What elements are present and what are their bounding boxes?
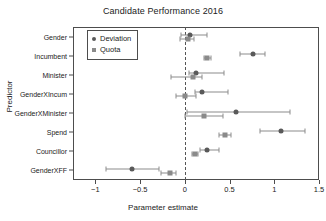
error-bar-cap <box>218 132 219 137</box>
y-tick-label-spend: Spend <box>47 129 67 136</box>
error-bar-cap <box>224 71 225 76</box>
x-tick-label: 1.5 <box>314 185 324 194</box>
error-bar-cap <box>193 37 194 42</box>
x-tick-mark <box>319 180 320 184</box>
x-tick-mark <box>185 180 186 184</box>
data-point-quota <box>192 151 197 156</box>
data-point-quota <box>201 113 206 118</box>
y-axis-label: Predictor <box>5 62 14 132</box>
y-tick-label-genderxincum: GenderXIncum <box>20 90 67 97</box>
y-tick-mark <box>69 113 73 114</box>
data-point-quota <box>190 75 195 80</box>
x-tick-mark <box>95 180 96 184</box>
chart-figure: Candidate Performance 2016 Predictor Par… <box>0 0 326 221</box>
y-tick-label-councillor: Councillor <box>36 148 67 155</box>
error-bar-cap <box>201 75 202 80</box>
error-bar-cap <box>227 90 228 95</box>
error-bar-cap <box>106 166 107 171</box>
legend-item-quota: Quota <box>92 45 131 56</box>
y-tick-label-gender: Gender <box>44 33 67 40</box>
chart-legend: Deviation Quota <box>87 30 138 60</box>
y-tick-mark <box>69 151 73 152</box>
error-bar-cap <box>171 75 172 80</box>
data-point-quota <box>205 56 210 61</box>
legend-item-deviation: Deviation <box>92 34 131 45</box>
error-bar-cap <box>184 113 185 118</box>
error-bar-cap <box>223 113 224 118</box>
y-tick-label-incumbent: Incumbent <box>34 52 67 59</box>
zero-reference-line <box>185 27 186 180</box>
error-bar-cap <box>290 109 291 114</box>
error-bar-cap <box>304 128 305 133</box>
data-point-deviation <box>250 52 255 57</box>
error-bar-cap <box>196 94 197 99</box>
error-bar-deviation <box>187 111 291 112</box>
error-bar-deviation <box>181 35 207 36</box>
x-tick-label: 1 <box>272 185 276 194</box>
error-bar-cap <box>231 132 232 137</box>
data-point-deviation <box>279 128 284 133</box>
error-bar-cap <box>181 33 182 38</box>
data-point-deviation <box>233 109 238 114</box>
error-bar-cap <box>198 151 199 156</box>
error-bar-cap <box>210 56 211 61</box>
data-point-deviation <box>130 166 135 171</box>
x-tick-mark <box>140 180 141 184</box>
x-tick-mark <box>230 180 231 184</box>
legend-label-deviation: Deviation <box>100 34 131 45</box>
y-tick-label-genderxminister: GenderXMinister <box>14 110 67 117</box>
x-tick-label: −0.5 <box>133 185 148 194</box>
y-tick-mark <box>69 55 73 56</box>
y-tick-mark <box>69 36 73 37</box>
square-marker-icon <box>92 48 96 52</box>
x-tick-label: 0 <box>183 185 187 194</box>
y-tick-mark <box>69 74 73 75</box>
error-bar-cap <box>186 109 187 114</box>
y-tick-label-genderxff: GenderXFF <box>30 167 67 174</box>
data-point-deviation <box>199 90 204 95</box>
data-point-quota <box>185 37 190 42</box>
legend-label-quota: Quota <box>100 45 120 56</box>
error-bar-cap <box>160 170 161 175</box>
error-bar-cap <box>218 147 219 152</box>
x-tick-label: −1 <box>91 185 100 194</box>
data-point-deviation <box>205 147 210 152</box>
y-tick-mark <box>69 132 73 133</box>
chart-title: Candidate Performance 2016 <box>0 6 326 16</box>
error-bar-cap <box>180 37 181 42</box>
y-tick-label-minister: Minister <box>42 71 67 78</box>
error-bar-cap <box>175 170 176 175</box>
circle-marker-icon <box>92 37 96 41</box>
x-tick-mark <box>274 180 275 184</box>
y-tick-mark <box>69 93 73 94</box>
error-bar-cap <box>175 94 176 99</box>
data-point-quota <box>223 132 228 137</box>
error-bar-quota <box>171 77 201 78</box>
y-tick-mark <box>69 170 73 171</box>
error-bar-cap <box>240 52 241 57</box>
data-point-quota <box>167 170 172 175</box>
x-axis-label: Parameter estimate <box>0 203 326 212</box>
error-bar-cap <box>200 147 201 152</box>
error-bar-cap <box>265 52 266 57</box>
x-tick-label: 0.5 <box>224 185 234 194</box>
error-bar-cap <box>207 33 208 38</box>
data-point-quota <box>182 94 187 99</box>
error-bar-cap <box>259 128 260 133</box>
